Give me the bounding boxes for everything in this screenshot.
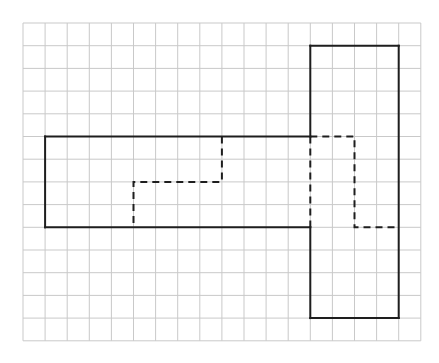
diagram-svg	[0, 0, 439, 363]
grid-diagram	[0, 0, 439, 363]
grid-lines	[23, 23, 421, 341]
